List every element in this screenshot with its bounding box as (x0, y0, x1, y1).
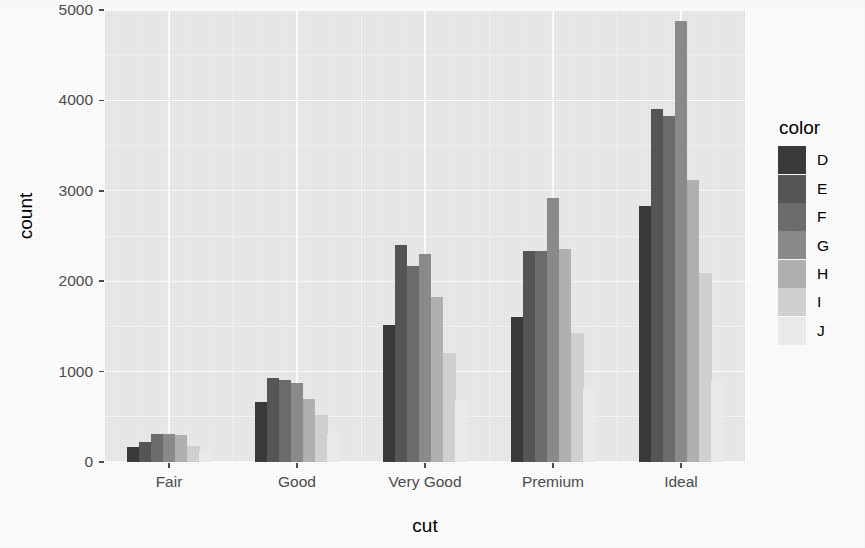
bar-premium-e (523, 251, 535, 462)
legend-label-d: D (817, 152, 828, 168)
y-tick-mark (99, 100, 104, 102)
bar-fair-f (151, 434, 163, 462)
legend-item-f: F (778, 203, 858, 231)
legend-swatch-j (778, 317, 806, 345)
bar-ideal-e (651, 109, 663, 462)
legend-item-h: H (778, 260, 858, 288)
x-tick-mark (680, 463, 682, 468)
bar-very-good-d (383, 325, 395, 462)
bar-good-g (291, 383, 303, 462)
bar-very-good-i (443, 353, 455, 462)
plot-panel (105, 10, 745, 462)
legend-title: color (778, 118, 858, 137)
y-tick-label: 0 (35, 454, 93, 470)
legend: color DEFGHIJ (778, 118, 858, 345)
bar-fair-e (139, 442, 151, 462)
bar-fair-g (163, 434, 175, 462)
legend-item-j: J (778, 316, 858, 344)
legend-label-f: F (817, 209, 826, 225)
y-tick-label: 3000 (35, 183, 93, 199)
legend-label-g: G (817, 238, 829, 254)
y-tick-mark (99, 9, 104, 11)
bar-ideal-d (639, 206, 651, 462)
legend-label-e: E (817, 181, 827, 197)
legend-swatch-g (778, 231, 806, 259)
legend-item-g: G (778, 231, 858, 259)
y-tick-mark (99, 371, 104, 373)
gridline-minor-vertical (617, 10, 618, 462)
bar-fair-j (199, 451, 211, 462)
bar-premium-d (511, 317, 523, 462)
bar-good-j (327, 434, 339, 462)
bar-good-i (315, 415, 327, 462)
bar-good-f (279, 380, 291, 462)
legend-item-i: I (778, 288, 858, 316)
legend-items: DEFGHIJ (778, 146, 858, 345)
gridline-minor-vertical (489, 10, 490, 462)
y-tick-label: 2000 (35, 273, 93, 289)
x-tick-mark (296, 463, 298, 468)
y-tick-label: 1000 (35, 364, 93, 380)
legend-label-j: J (817, 323, 825, 339)
top-margin-band (0, 0, 865, 9)
x-axis-title: cut (105, 515, 745, 537)
legend-label-i: I (817, 294, 821, 310)
bar-premium-f (535, 251, 547, 462)
legend-swatch-h (778, 260, 806, 288)
x-tick-mark (168, 463, 170, 468)
legend-swatch-i (778, 288, 806, 316)
y-tick-label: 5000 (35, 2, 93, 18)
bar-good-e (267, 378, 279, 462)
bar-premium-h (559, 249, 571, 462)
bar-good-d (255, 402, 267, 462)
legend-label-h: H (817, 266, 828, 282)
bar-ideal-j (711, 381, 723, 462)
bar-good-h (303, 399, 315, 462)
bar-fair-h (175, 435, 187, 462)
legend-swatch-d (778, 146, 806, 174)
gridline-minor-vertical (361, 10, 362, 462)
bar-ideal-f (663, 116, 675, 462)
bar-premium-j (583, 389, 595, 462)
gridline-minor-vertical (233, 10, 234, 462)
y-axis-title: count (15, 156, 37, 276)
bar-premium-i (571, 333, 583, 462)
y-tick-mark (99, 190, 104, 192)
bar-very-good-e (395, 245, 407, 462)
bar-fair-i (187, 446, 199, 462)
legend-item-e: E (778, 174, 858, 202)
bar-premium-g (547, 198, 559, 462)
chart-root: 010002000300040005000 FairGoodVery GoodP… (0, 0, 865, 548)
y-tick-label: 4000 (35, 92, 93, 108)
bar-ideal-g (675, 21, 687, 463)
bar-very-good-h (431, 297, 443, 462)
legend-item-d: D (778, 146, 858, 174)
x-tick-mark (552, 463, 554, 468)
legend-swatch-f (778, 203, 806, 231)
bar-very-good-g (419, 254, 431, 462)
bar-very-good-j (455, 401, 467, 462)
legend-swatch-e (778, 175, 806, 203)
y-tick-mark (99, 280, 104, 282)
bar-fair-d (127, 447, 139, 462)
x-tick-mark (424, 463, 426, 468)
x-tick-label-ideal: Ideal (601, 474, 761, 490)
bar-ideal-i (699, 273, 711, 462)
bar-ideal-h (687, 180, 699, 462)
gridline-major-vertical (168, 10, 169, 462)
bar-very-good-f (407, 266, 419, 462)
y-tick-mark (99, 461, 104, 463)
